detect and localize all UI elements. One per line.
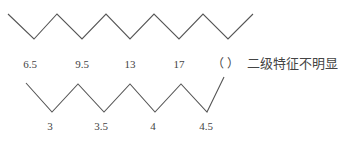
- bottom-label-3: 4: [150, 120, 156, 132]
- bottom-label-2: 3.5: [94, 120, 108, 132]
- bottom-label-1: 3: [47, 120, 53, 132]
- annotation-text: 二级特征不明显: [247, 57, 338, 71]
- top-zigzag-line: [8, 14, 253, 39]
- answer-blank: （ ）: [212, 57, 239, 71]
- top-label-4: 17: [174, 58, 185, 70]
- top-label-3: 13: [125, 58, 136, 70]
- top-label-1: 6.5: [23, 58, 37, 70]
- bottom-label-4: 4.5: [199, 120, 213, 132]
- top-label-2: 9.5: [75, 58, 89, 70]
- bottom-zigzag-line: [26, 77, 224, 112]
